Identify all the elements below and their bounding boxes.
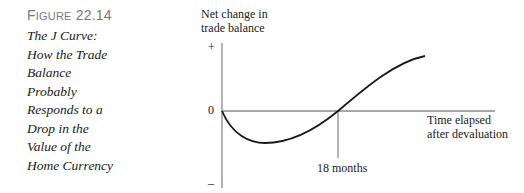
j-curve-plot [0, 0, 524, 193]
j-curve-line [222, 56, 425, 143]
